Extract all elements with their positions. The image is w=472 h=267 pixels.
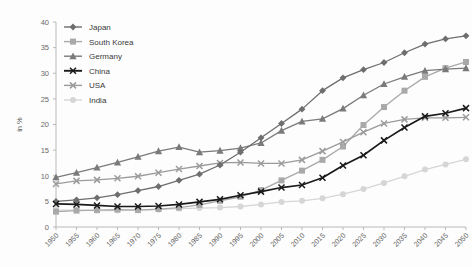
y-tick-label: 20	[41, 120, 49, 129]
x-tick-label: 2005	[268, 231, 286, 249]
y-tick-label: 30	[41, 69, 49, 78]
chart-container: 0510152025303540in %19501955196019651970…	[0, 0, 472, 267]
data-point-marker	[217, 205, 223, 211]
x-tick-label: 2000	[248, 231, 266, 249]
data-point-marker	[70, 97, 76, 103]
data-point-marker	[319, 115, 326, 122]
legend-item-label: USA	[89, 81, 106, 90]
data-point-marker	[360, 91, 367, 98]
data-point-marker	[299, 168, 305, 174]
x-tick-label: 1965	[104, 231, 122, 249]
x-tick-label: 2040	[412, 231, 430, 249]
data-point-marker	[155, 183, 162, 190]
legend-item-label: Germany	[89, 52, 122, 61]
data-point-marker	[422, 167, 428, 173]
data-point-marker	[381, 104, 387, 110]
data-point-marker	[279, 199, 285, 205]
x-tick-label: 1950	[43, 231, 61, 249]
x-tick-label: 1990	[207, 231, 225, 249]
data-point-marker	[114, 191, 121, 198]
x-tick-label: 1960	[84, 231, 102, 249]
data-point-marker	[443, 161, 449, 167]
data-point-marker	[74, 208, 80, 214]
x-tick-label: 2035	[391, 231, 409, 249]
data-point-marker	[422, 41, 429, 48]
data-point-marker	[381, 59, 388, 66]
data-point-marker	[238, 204, 244, 210]
data-point-marker	[361, 186, 367, 192]
y-tick-label: 15	[41, 146, 49, 155]
data-point-marker	[299, 198, 305, 204]
x-tick-label: 2010	[289, 231, 307, 249]
data-point-marker	[135, 187, 142, 194]
legend-item-japan[interactable]: Japan	[64, 23, 111, 32]
data-point-marker	[176, 177, 183, 184]
legend-item-usa[interactable]: USA	[64, 81, 106, 90]
data-point-marker	[279, 177, 285, 183]
data-point-marker	[340, 74, 347, 81]
data-point-marker	[381, 137, 387, 143]
x-tick-label: 2025	[350, 231, 368, 249]
data-point-marker	[381, 180, 387, 186]
data-point-marker	[360, 66, 367, 73]
data-point-marker	[53, 209, 59, 215]
y-axis-title: in %	[15, 117, 24, 132]
x-tick-label: 1975	[145, 231, 163, 249]
legend-item-china[interactable]: China	[64, 67, 110, 76]
x-tick-label: 1995	[227, 231, 245, 249]
x-tick-label: 2015	[309, 231, 327, 249]
y-tick-label: 25	[41, 95, 49, 104]
data-point-marker	[463, 156, 469, 162]
data-point-marker	[401, 49, 408, 56]
data-point-marker	[320, 157, 326, 163]
data-point-marker	[402, 173, 408, 179]
data-point-marker	[402, 125, 408, 131]
x-tick-label: 1985	[186, 231, 204, 249]
legend-item-label: South Korea	[89, 38, 134, 47]
data-point-marker	[175, 143, 182, 150]
data-point-marker	[463, 32, 470, 39]
y-tick-label: 10	[41, 172, 49, 181]
data-point-marker	[361, 152, 367, 158]
line-chart: 0510152025303540in %19501955196019651970…	[0, 0, 472, 267]
y-tick-label: 5	[45, 197, 49, 206]
x-tick-label: 2030	[371, 231, 389, 249]
data-point-marker	[422, 74, 428, 80]
data-point-marker	[258, 201, 264, 207]
x-tick-label: 1980	[166, 231, 184, 249]
data-point-marker	[361, 122, 367, 128]
x-tick-label: 1955	[63, 231, 81, 249]
data-point-marker	[340, 191, 346, 197]
data-point-marker	[339, 105, 346, 112]
data-point-marker	[320, 148, 326, 154]
data-point-marker	[94, 194, 101, 201]
x-tick-label: 1970	[125, 231, 143, 249]
data-point-marker	[196, 171, 203, 178]
data-point-marker	[402, 88, 408, 94]
data-point-marker	[340, 163, 346, 169]
data-point-marker	[320, 195, 326, 201]
legend-item-label: China	[89, 67, 110, 76]
data-point-marker	[278, 127, 285, 134]
data-point-marker	[442, 36, 449, 43]
x-tick-label: 2020	[330, 231, 348, 249]
y-tick-label: 0	[45, 223, 49, 232]
legend-item-label: India	[89, 96, 107, 105]
data-point-marker	[70, 24, 77, 31]
legend-item-germany[interactable]: Germany	[64, 52, 122, 61]
data-point-marker	[463, 59, 469, 65]
legend-item-india[interactable]: India	[64, 96, 107, 105]
legend-item-label: Japan	[89, 23, 111, 32]
data-point-marker	[361, 129, 367, 135]
legend-item-south-korea[interactable]: South Korea	[64, 38, 134, 47]
y-tick-label: 35	[41, 43, 49, 52]
x-tick-label: 2050	[453, 231, 471, 249]
y-tick-label: 40	[41, 18, 49, 27]
x-tick-label: 2045	[432, 231, 450, 249]
data-point-marker	[70, 39, 76, 45]
